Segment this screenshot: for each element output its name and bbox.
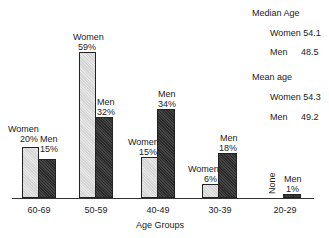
tick-30-39: 30-39 <box>195 205 245 215</box>
label-men-20-29: Men <box>284 174 302 184</box>
label-men-40-49: Men <box>158 89 176 99</box>
bar-men-60-69 <box>38 159 56 198</box>
bar-women-50-59 <box>79 52 96 198</box>
mean-age-men-value: 49.2 <box>301 112 319 122</box>
value-men-30-39: 18% <box>219 143 237 153</box>
tick-50-59: 50-59 <box>71 205 121 215</box>
value-men-50-59: 32% <box>97 107 115 117</box>
label-women-20-29-none: None <box>267 172 277 194</box>
x-axis-title: Age Groups <box>136 220 184 230</box>
mean-age-women: Women 54.3 <box>270 92 321 102</box>
tick-60-69: 60-69 <box>14 205 64 215</box>
value-men-40-49: 34% <box>158 99 176 109</box>
label-women-40-49: Women <box>128 137 159 147</box>
value-women-40-49: 15% <box>139 147 157 157</box>
median-age-women: Women 54.1 <box>270 28 321 38</box>
median-age-men-value: 48.5 <box>301 47 319 57</box>
median-age-title: Median Age <box>252 8 300 18</box>
label-men-60-69: Men <box>40 134 58 144</box>
label-men-30-39: Men <box>220 133 238 143</box>
value-women-30-39: 6% <box>204 174 217 184</box>
bar-men-40-49 <box>157 109 175 198</box>
label-men-50-59: Men <box>97 97 115 107</box>
bar-women-30-39 <box>202 184 219 198</box>
tick-40-49: 40-49 <box>133 205 183 215</box>
value-women-50-59: 59% <box>78 42 96 52</box>
age-group-bar-chart: Median Age Women 54.1 Men 48.5 Mean age … <box>0 0 329 238</box>
tick-20-29: 20-29 <box>260 205 310 215</box>
bar-men-50-59 <box>95 117 113 198</box>
value-men-60-69: 15% <box>40 144 58 154</box>
bar-men-30-39 <box>218 153 237 198</box>
value-women-60-69: 20% <box>20 134 38 144</box>
value-men-20-29: 1% <box>286 184 299 194</box>
label-women-50-59: Women <box>73 32 104 42</box>
label-women-30-39: Women <box>188 164 219 174</box>
bar-women-40-49 <box>141 157 158 198</box>
label-women-60-69: Women <box>8 124 39 134</box>
mean-age-title: Mean age <box>252 72 292 82</box>
x-axis-line <box>12 198 314 199</box>
bar-women-60-69 <box>22 147 39 198</box>
mean-age-men-label: Men <box>270 112 288 122</box>
median-age-men-label: Men <box>270 47 288 57</box>
